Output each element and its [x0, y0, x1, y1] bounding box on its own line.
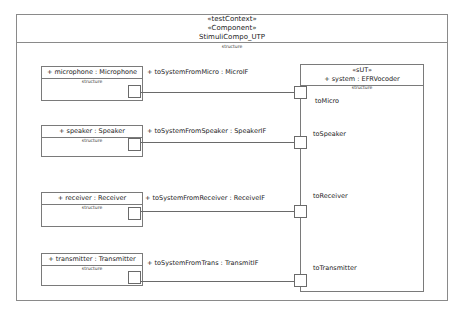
frame-title: StimuliCompo_UTP: [16, 33, 448, 42]
part-speaker-compartment: structure: [42, 138, 142, 144]
port-sut-transmitter[interactable]: [294, 274, 307, 287]
port-speaker[interactable]: [128, 138, 141, 151]
stereotype-component: «Component»: [16, 24, 448, 33]
sut-label: + system : EFRVocoder: [301, 75, 423, 84]
sut-port-label-transmitter: toTransmitter: [313, 264, 357, 272]
part-microphone-compartment: structure: [42, 79, 142, 85]
connector-transmitter[interactable]: [141, 281, 295, 282]
port-microphone[interactable]: [128, 85, 141, 98]
part-transmitter-label: + transmitter : Transmitter: [42, 254, 142, 266]
connector-transmitter-label: + toSystemFromTrans : TransmitIF: [147, 259, 258, 267]
sut-port-label-speaker: toSpeaker: [313, 130, 346, 138]
part-receiver-label: + receiver : Receiver: [42, 193, 142, 205]
sut-header: «sUT» + system : EFRVocoder: [301, 65, 423, 86]
connector-receiver-label: + toSystemFromReceiver : ReceiveIF: [145, 194, 265, 202]
sut-port-label-micro: toMicro: [315, 97, 339, 105]
port-sut-receiver[interactable]: [294, 205, 307, 218]
sut-compartment-label: structure: [301, 85, 423, 91]
part-receiver-compartment: structure: [42, 205, 142, 211]
part-microphone-label: + microphone : Microphone: [42, 67, 142, 79]
connector-receiver[interactable]: [141, 211, 295, 212]
connector-micro[interactable]: [141, 92, 295, 93]
sut-stereotype: «sUT»: [301, 66, 423, 75]
connector-speaker[interactable]: [141, 142, 295, 143]
connector-micro-label: + toSystemFromMicro : MicroIF: [147, 68, 248, 76]
frame-compartment-label: structure: [16, 43, 448, 50]
port-receiver[interactable]: [128, 207, 141, 220]
stereotype-testcontext: «testContext»: [16, 15, 448, 24]
connector-speaker-label: + toSystemFromSpeaker : SpeakerIF: [147, 127, 266, 135]
sut-port-label-receiver: toReceiver: [313, 192, 348, 200]
port-sut-micro[interactable]: [294, 86, 307, 99]
part-transmitter-compartment: structure: [42, 266, 142, 272]
part-speaker-label: + speaker : Speaker: [42, 126, 142, 138]
port-sut-speaker[interactable]: [294, 136, 307, 149]
frame-header: «testContext» «Component» StimuliCompo_U…: [16, 14, 448, 43]
port-transmitter[interactable]: [128, 271, 141, 284]
